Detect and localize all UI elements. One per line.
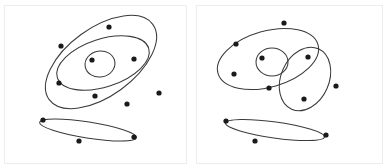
data-point [58, 43, 63, 48]
data-point [281, 20, 286, 25]
data-point [305, 54, 310, 59]
right-panel [194, 0, 388, 168]
data-point [56, 80, 61, 85]
left-panel [0, 0, 194, 168]
left-panel-canvas [0, 0, 194, 168]
data-point [131, 56, 136, 61]
data-point [333, 83, 338, 88]
data-point [223, 118, 228, 123]
data-point [266, 85, 271, 90]
left-panel-frame [5, 6, 187, 164]
data-point [156, 90, 161, 95]
scatter-ellipse-figure [0, 0, 388, 168]
data-point [301, 96, 306, 101]
data-point [231, 71, 236, 76]
data-point [323, 132, 328, 137]
data-point [259, 55, 264, 60]
data-point [252, 138, 257, 143]
data-point [76, 138, 81, 143]
data-point [124, 101, 129, 106]
right-panel-canvas [194, 0, 388, 168]
data-point [131, 134, 136, 139]
data-point [92, 93, 97, 98]
data-point [233, 41, 238, 46]
data-point [89, 57, 94, 62]
data-point [106, 24, 111, 29]
data-point [40, 117, 45, 122]
